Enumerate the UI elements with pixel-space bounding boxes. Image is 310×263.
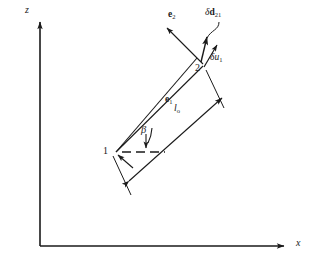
e2-vector-subscript: 2 [172,13,175,20]
delta-d21-label: δd21 [205,8,221,18]
l0-node1-inward-arrow [118,155,133,168]
l0-length-label: lo [174,103,180,113]
vector-mechanics-figure: z x 1 2 β e1 e2 δd21 δu1 lo [0,0,310,263]
e2-vector-group [167,28,203,64]
node-2-label: 2 [195,63,200,73]
z-axis-label: z [25,5,29,15]
delta-d21-leader-curve [207,22,219,38]
bar-axis-line [116,66,203,152]
bar-element-group [116,58,203,152]
delta-u1-subscript: 1 [219,56,222,63]
figure-canvas [0,0,310,263]
l0-extension-tick-node2 [206,70,224,108]
beta-angle-arc [148,128,152,143]
node-1-label: 1 [103,146,108,156]
e2-vector-label: e2 [168,10,175,20]
e1-vector-line [116,58,197,152]
l0-dimension-group [113,70,224,195]
e2-vector-arrow [167,28,203,64]
l0-extension-tick-node1 [113,156,131,195]
axis-group [40,22,284,246]
delta-d21-arrow [201,37,207,62]
l0-subscript: o [177,107,180,114]
delta-u1-label: δu1 [210,53,222,63]
beta-angle-label: β [141,125,146,136]
x-axis-label: x [296,238,300,248]
delta-d21-symbol: d [209,7,214,17]
e1-vector-subscript: 1 [169,98,172,105]
delta-d21-subscript: 21 [215,11,222,18]
e1-vector-label: e1 [165,95,172,105]
